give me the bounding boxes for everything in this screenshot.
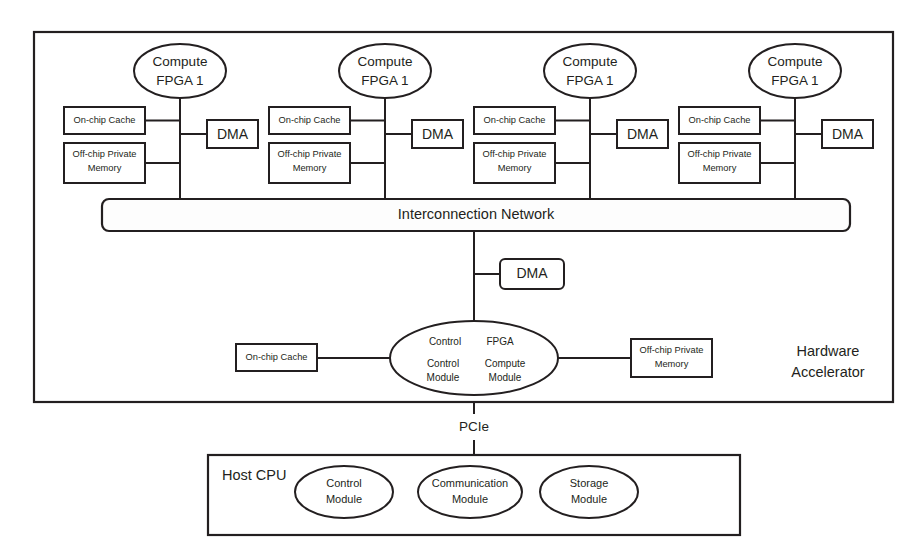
hardware-accelerator-label-line2: Accelerator (791, 364, 865, 380)
compute-fpga-title-line1: Compute (563, 54, 618, 69)
diagram-canvas: Compute FPGA 1 On-chip Cache Off-chip Pr… (0, 0, 922, 557)
on-chip-cache-label: On-chip Cache (73, 115, 135, 125)
compute-fpga-ellipse[interactable] (339, 44, 431, 98)
on-chip-cache-label: On-chip Cache (688, 115, 750, 125)
compute-fpga-ellipse[interactable] (749, 44, 841, 98)
compute-fpga-title-line1: Compute (358, 54, 413, 69)
dma-label: DMA (832, 126, 864, 142)
compute-fpga-title-line2: FPGA 1 (156, 73, 203, 88)
off-chip-memory-label-line2: Memory (293, 163, 327, 173)
compute-module-label-line1: Compute (485, 358, 526, 369)
off-chip-memory-label-line2: Memory (498, 163, 532, 173)
dma-label: DMA (217, 126, 249, 142)
pcie-label: PCIe (459, 419, 489, 434)
compute-fpga-title-line2: FPGA 1 (771, 73, 818, 88)
host-module-control: Control Module (295, 466, 393, 518)
control-module-label-line1: Control (427, 358, 459, 369)
control-fpga-group: Control FPGA Control Module Compute Modu… (390, 321, 558, 395)
compute-fpga-title-line2: FPGA 1 (361, 73, 408, 88)
host-cpu-label: Host CPU (222, 467, 286, 483)
architecture-diagram: Compute FPGA 1 On-chip Cache Off-chip Pr… (0, 0, 922, 557)
hardware-accelerator-label-line1: Hardware (797, 343, 860, 359)
host-module-label-line2: Module (571, 493, 607, 505)
compute-fpga-title-line1: Compute (153, 54, 208, 69)
host-module-label-line1: Control (326, 477, 361, 489)
off-chip-memory-label-line2: Memory (703, 163, 737, 173)
off-chip-memory-label-line1: Off-chip Private (688, 149, 752, 159)
compute-fpga-title-line1: Compute (768, 54, 823, 69)
on-chip-cache-label: On-chip Cache (278, 115, 340, 125)
center-off-chip-memory-label-line1: Off-chip Private (640, 345, 704, 355)
center-off-chip-memory-label-line2: Memory (655, 359, 689, 369)
host-module-storage: Storage Module (540, 466, 638, 518)
host-module-label-line2: Module (326, 493, 362, 505)
host-module-label-line2: Module (452, 493, 488, 505)
control-fpga-ellipse[interactable] (390, 321, 558, 395)
off-chip-memory-label-line1: Off-chip Private (278, 149, 342, 159)
off-chip-memory-label-line2: Memory (88, 163, 122, 173)
host-module-label-line1: Communication (432, 477, 508, 489)
dma-label: DMA (627, 126, 659, 142)
off-chip-memory-label-line1: Off-chip Private (73, 149, 137, 159)
host-module-communication: Communication Module (418, 466, 522, 518)
off-chip-memory-label-line1: Off-chip Private (483, 149, 547, 159)
interconnection-network-label: Interconnection Network (398, 206, 555, 222)
host-module-label-line1: Storage (570, 477, 609, 489)
control-fpga-top-left-label: Control (429, 336, 461, 347)
center-dma-label: DMA (516, 265, 548, 281)
dma-label: DMA (422, 126, 454, 142)
compute-module-label-line2: Module (489, 372, 522, 383)
compute-fpga-ellipse[interactable] (134, 44, 226, 98)
on-chip-cache-label: On-chip Cache (483, 115, 545, 125)
control-fpga-top-right-label: FPGA (486, 336, 514, 347)
compute-fpga-ellipse[interactable] (544, 44, 636, 98)
center-on-chip-cache-label: On-chip Cache (245, 352, 307, 362)
control-module-label-line2: Module (427, 372, 460, 383)
compute-fpga-title-line2: FPGA 1 (566, 73, 613, 88)
